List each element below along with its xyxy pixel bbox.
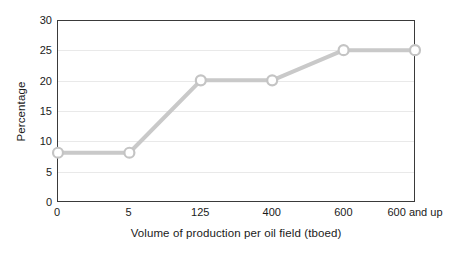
- x-tick-label: 0: [54, 204, 60, 220]
- y-tick-label: 0: [22, 197, 52, 208]
- y-axis-tick-labels: 302520151050: [22, 20, 52, 202]
- x-tick-label: 600 and up: [387, 204, 442, 220]
- data-point-marker: [410, 45, 420, 55]
- x-axis-tick-labels: 05125400600600 and up: [57, 204, 415, 222]
- data-point-marker: [124, 148, 134, 158]
- y-tick-label: 10: [22, 136, 52, 147]
- x-tick-label: 600: [334, 204, 352, 220]
- y-tick-label: 20: [22, 75, 52, 86]
- plot-area: [57, 20, 415, 202]
- y-tick-label: 25: [22, 45, 52, 56]
- x-axis-title: Volume of production per oil field (tboe…: [57, 227, 415, 239]
- y-tick-label: 15: [22, 106, 52, 117]
- x-tick-label: 125: [191, 204, 209, 220]
- data-point-marker: [339, 45, 349, 55]
- data-point-marker: [267, 75, 277, 85]
- line-chart: Percentage 302520151050 05125400600600 a…: [0, 0, 457, 253]
- data-point-marker: [53, 148, 63, 158]
- y-tick-label: 30: [22, 15, 52, 26]
- series-line: [58, 50, 415, 153]
- series-percentage: [58, 20, 415, 201]
- x-tick-label: 400: [263, 204, 281, 220]
- y-tick-label: 5: [22, 166, 52, 177]
- x-tick-label: 5: [126, 204, 132, 220]
- data-point-marker: [196, 75, 206, 85]
